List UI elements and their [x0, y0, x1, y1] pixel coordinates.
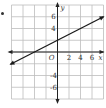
y-axis-up-arrow-icon	[56, 2, 60, 7]
x-axis-label: x	[99, 54, 103, 62]
y-tick-label: 4	[51, 25, 56, 33]
y-tick-label: 6	[51, 13, 56, 21]
y-axis-down-arrow-icon	[56, 99, 60, 104]
y-tick-label: -6	[50, 84, 57, 92]
x-tick-label: 2	[67, 54, 71, 62]
y-tick-label: -4	[50, 72, 57, 80]
x-tick-label: 4	[78, 54, 83, 62]
x-tick-label: 6	[90, 54, 95, 62]
origin-label: O	[49, 54, 55, 62]
x-axis-left-arrow-icon	[8, 50, 13, 54]
coordinate-graph: yxO24664-4-6	[0, 0, 106, 108]
tick-labels: yxO24664-4-6	[49, 4, 103, 92]
